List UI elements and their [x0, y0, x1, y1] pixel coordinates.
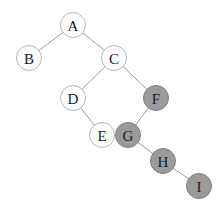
graph-node-e[interactable]: E [90, 123, 115, 148]
graph-node-c[interactable]: C [102, 46, 127, 71]
graph-node-b[interactable]: B [17, 46, 42, 71]
node-circle-i[interactable] [187, 174, 212, 199]
node-circle-e[interactable] [90, 123, 115, 148]
graph-node-h[interactable]: H [151, 149, 176, 174]
nodes-layer: ABCDEFGHI [17, 13, 212, 199]
graph-edge-a-c [83, 33, 105, 50]
graph-edge-c-f [123, 67, 147, 90]
node-circle-c[interactable] [102, 46, 127, 71]
node-circle-a[interactable] [61, 13, 86, 38]
graph-edge-c-d [82, 67, 105, 90]
graph-node-i[interactable]: I [187, 174, 212, 199]
graph-svg: ABCDEFGHI [0, 0, 223, 211]
graph-node-d[interactable]: D [61, 86, 86, 111]
graph-edge-a-b [39, 33, 63, 51]
graph-edge-d-e [81, 108, 95, 125]
node-circle-f[interactable] [144, 86, 169, 111]
graph-edge-f-g [136, 108, 149, 125]
node-circle-d[interactable] [61, 86, 86, 111]
graph-diagram: ABCDEFGHI [0, 0, 223, 211]
graph-edge-g-h [138, 142, 153, 153]
graph-node-g[interactable]: G [116, 123, 141, 148]
node-circle-b[interactable] [17, 46, 42, 71]
node-circle-g[interactable] [116, 123, 141, 148]
node-circle-h[interactable] [151, 149, 176, 174]
graph-node-a[interactable]: A [61, 13, 86, 38]
graph-node-f[interactable]: F [144, 86, 169, 111]
graph-edge-h-i [173, 168, 188, 179]
